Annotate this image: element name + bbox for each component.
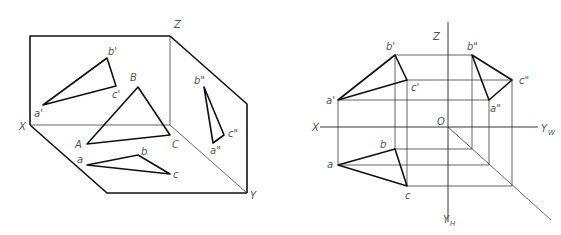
- x-label: X: [311, 122, 320, 133]
- x-axis-label: X: [18, 121, 27, 132]
- label-c-prime: c': [112, 89, 120, 100]
- z-label: Z: [432, 31, 441, 42]
- label-C: C: [172, 139, 179, 150]
- label-b-double-prime: b": [194, 75, 205, 86]
- left-pictorial-figure: X Z Y a' b' c' A B C a b c b" c" a": [18, 19, 257, 201]
- label-A: A: [74, 139, 82, 150]
- origin-label: O: [437, 116, 445, 127]
- side-view-triangle: [472, 55, 512, 100]
- label-c-double-prime: c": [519, 75, 529, 86]
- projection-lines: [338, 55, 512, 186]
- label-b-prime: b': [108, 46, 117, 57]
- label-a: a: [77, 154, 83, 165]
- top-view-triangle: [338, 149, 407, 186]
- label-c: c: [173, 169, 179, 180]
- front-view-triangle: [338, 55, 407, 100]
- yh-label: Y: [443, 214, 450, 225]
- projection-diagram: X Z Y a' b' c' A B C a b c b" c" a": [0, 0, 561, 235]
- label-a-prime: a': [326, 95, 335, 106]
- label-B: B: [130, 72, 137, 83]
- front-projection-triangle: [43, 58, 116, 105]
- label-b-prime: b': [386, 41, 395, 52]
- side-projection-triangle: [204, 87, 224, 143]
- top-projection-triangle: [87, 155, 170, 174]
- y-axis-label: Y: [250, 190, 257, 201]
- label-a-double-prime: a": [490, 103, 501, 114]
- h-plane-outline: [30, 125, 247, 193]
- z-axis-label: Z: [173, 19, 182, 30]
- label-a-prime: a': [34, 108, 43, 119]
- label-c-prime: c': [411, 82, 419, 93]
- v-plane-outline: [30, 36, 170, 125]
- miter-line-45deg: [448, 127, 551, 220]
- label-b-double-prime: b": [467, 41, 478, 52]
- yw-label: Y: [541, 123, 548, 134]
- label-b: b: [141, 146, 147, 157]
- right-orthographic-figure: Z X O Y W Y H a' b' c' a b c b" c" a": [311, 22, 556, 228]
- label-a-double-prime: a": [210, 145, 221, 156]
- label-c: c: [405, 190, 411, 201]
- label-b: b: [380, 139, 386, 150]
- label-c-double-prime: c": [228, 128, 238, 139]
- label-a: a: [327, 159, 333, 170]
- yw-subscript: W: [548, 129, 556, 137]
- space-triangle: [87, 87, 170, 144]
- yh-subscript: H: [450, 220, 456, 228]
